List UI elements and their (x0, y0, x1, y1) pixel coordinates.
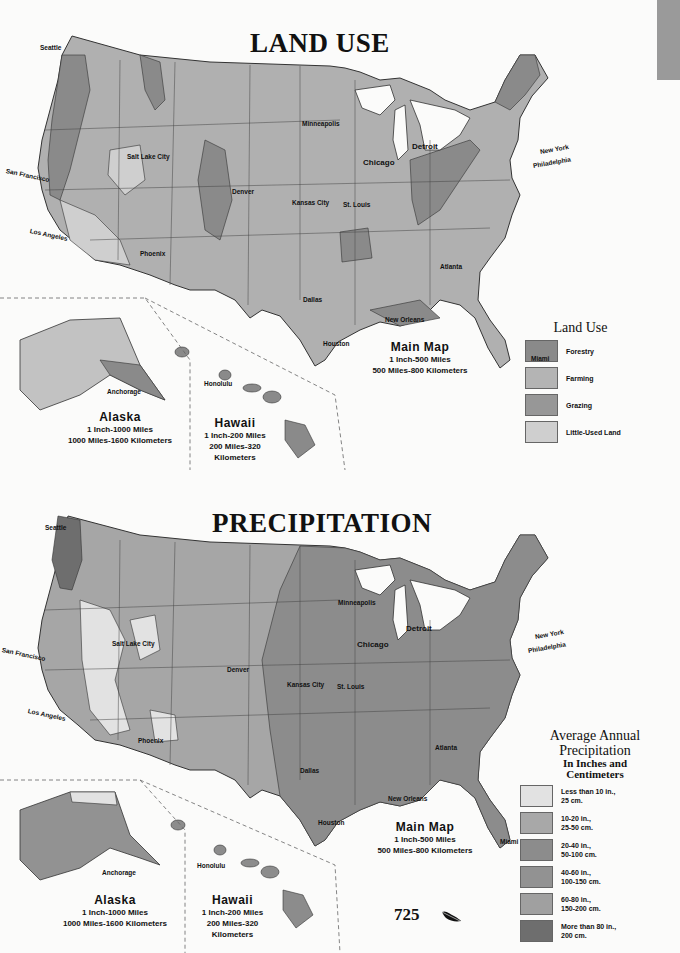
swatch-more-than-80 (520, 920, 553, 942)
land-use-city-label: Denver (232, 188, 254, 195)
land-use-city-label: Honolulu (204, 380, 232, 387)
legend-item-less-than-10: Less than 10 in., 25 cm. (520, 785, 670, 807)
land-use-city-label: Miami (531, 355, 549, 362)
legend-item-40-60: 40-60 in., 100-150 cm. (520, 866, 670, 888)
legend-item-farming: Farming (525, 367, 621, 389)
precipitation-city-label: New Orleans (388, 795, 427, 802)
legend-item-more-than-80: More than 80 in., 200 cm. (520, 920, 670, 942)
land-use-city-label: St. Louis (343, 201, 370, 208)
swatch-less-than-10 (520, 785, 553, 807)
precipitation-city-label: Seattle (45, 524, 66, 531)
precipitation-city-label: Minneapolis (338, 599, 376, 606)
swatch-little-used-land (525, 421, 558, 443)
land-use-city-label: Detroit (412, 142, 438, 151)
legend-item-10-20: 10-20 in., 25-50 cm. (520, 812, 670, 834)
land-use-city-label: New Orleans (385, 316, 424, 323)
legend-item-grazing: Grazing (525, 394, 621, 416)
precipitation-city-label: Atlanta (435, 744, 457, 751)
land-use-city-label: Dallas (303, 296, 322, 303)
precipitation-city-label: Salt Lake City (112, 640, 155, 647)
precipitation-city-label: Kansas City (287, 681, 324, 688)
precipitation-city-label: Phoenix (138, 737, 163, 744)
precipitation-city-label: Denver (227, 666, 249, 673)
precipitation-city-label: Detroit (406, 624, 432, 633)
land-use-city-label: Minneapolis (302, 120, 340, 127)
swatch-grazing (525, 394, 558, 416)
land-use-city-label: Chicago (363, 158, 395, 167)
land-use-city-label: Phoenix (140, 250, 165, 257)
precipitation-city-label: Chicago (357, 640, 389, 649)
precipitation-city-label: St. Louis (337, 683, 364, 690)
precipitation-hawaii-scale: Hawaii 1 Inch-200 Miles 200 Miles-320 Ki… (195, 893, 270, 940)
legend-item-little-used-land: Little-Used Land (525, 421, 621, 443)
swatch-20-40 (520, 839, 553, 861)
precipitation-alaska-scale: Alaska 1 Inch-1000 Miles 1000 Miles-1600… (50, 893, 180, 929)
swatch-60-80 (520, 893, 553, 915)
land-use-hawaii-scale: Hawaii 1 Inch-200 Miles 200 Miles-320 Ki… (200, 416, 270, 463)
land-use-legend: Land Use Forestry Farming Grazing Little… (525, 320, 621, 443)
legend-item-20-40: 20-40 in., 50-100 cm. (520, 839, 670, 861)
precipitation-city-label: Houston (318, 819, 344, 826)
page-number: 725 (394, 905, 420, 925)
land-use-main-map-scale: Main Map 1 Inch-500 Miles 500 Miles-800 … (350, 340, 490, 376)
precipitation-city-label: Honolulu (197, 862, 225, 869)
legend-item-60-80: 60-80 in., 150-200 cm. (520, 893, 670, 915)
land-use-city-label: Anchorage (107, 388, 141, 395)
swatch-farming (525, 367, 558, 389)
land-use-city-label: Seattle (40, 44, 61, 51)
land-use-alaska-scale: Alaska 1 Inch-1000 Miles 1000 Miles-1600… (55, 410, 185, 446)
land-use-city-label: Salt Lake City (127, 153, 170, 160)
swatch-10-20 (520, 812, 553, 834)
precipitation-city-label: Miami (500, 838, 518, 845)
swatch-40-60 (520, 866, 553, 888)
precipitation-city-label: Anchorage (102, 869, 136, 876)
land-use-city-label: Houston (323, 340, 349, 347)
precipitation-legend: Average Annual Precipitation In Inches a… (520, 728, 670, 942)
precipitation-city-label: Dallas (300, 767, 319, 774)
land-use-city-label: Atlanta (440, 263, 462, 270)
land-use-city-label: Kansas City (292, 199, 329, 206)
feather-ornament-icon (440, 908, 462, 924)
precipitation-main-map-scale: Main Map 1 Inch-500 Miles 500 Miles-800 … (345, 820, 505, 856)
